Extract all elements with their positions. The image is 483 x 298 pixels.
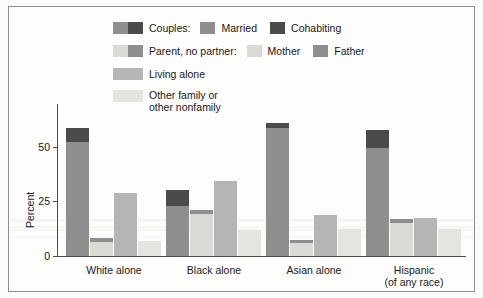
bar-asian-couples	[266, 123, 289, 256]
y-tick-0	[53, 256, 57, 257]
bar-segment-married	[66, 142, 89, 256]
bar-segment-married	[166, 206, 189, 256]
plot-area: 0 25 50 Percent	[0, 0, 483, 298]
bar-white-living-alone	[114, 193, 137, 256]
bar-hispanic-couples	[366, 130, 389, 256]
bar-segment-cohabiting	[166, 190, 189, 206]
x-tick-label-hispanic-line1: Hispanic	[364, 264, 464, 276]
x-tick-label-hispanic-line2: (of any race)	[364, 276, 464, 288]
x-axis-line	[57, 256, 466, 257]
bar-black-other-family	[238, 230, 261, 256]
bar-black-living-alone	[214, 181, 237, 256]
bar-hispanic-living-alone	[414, 218, 437, 256]
bar-white-parent-no-partner	[90, 238, 113, 256]
bar-hispanic-parent-no-partner	[390, 219, 413, 256]
bar-segment-mother	[190, 214, 213, 256]
bar-segment-mother	[290, 243, 313, 256]
y-axis-title: Percent	[24, 192, 36, 228]
bar-segment-cohabiting	[66, 128, 89, 142]
bar-segment-cohabiting	[366, 130, 389, 148]
bar-white-other-family	[138, 241, 161, 256]
x-tick-label-asian-alone: Asian alone	[264, 264, 364, 276]
y-tick-25	[53, 201, 57, 202]
x-tick-label-white-alone: White alone	[64, 264, 164, 276]
bar-hispanic-other-family	[438, 229, 461, 256]
y-tick-50	[53, 147, 57, 148]
bar-segment-married	[266, 128, 289, 256]
y-tick-label-0: 0	[24, 250, 50, 262]
bar-asian-other-family	[338, 229, 361, 256]
bar-black-couples	[166, 190, 189, 256]
bar-segment-mother	[90, 242, 113, 256]
bar-asian-parent-no-partner	[290, 240, 313, 256]
y-tick-label-50: 50	[24, 141, 50, 153]
bar-segment-mother	[390, 223, 413, 256]
y-axis-line	[57, 104, 58, 257]
figure-container: Couples: Married Cohabiting Parent, no p…	[0, 0, 483, 298]
bar-asian-living-alone	[314, 215, 337, 256]
bar-white-couples	[66, 128, 89, 256]
x-tick-label-black-alone: Black alone	[164, 264, 264, 276]
bar-black-parent-no-partner	[190, 210, 213, 256]
bar-segment-married	[366, 148, 389, 256]
